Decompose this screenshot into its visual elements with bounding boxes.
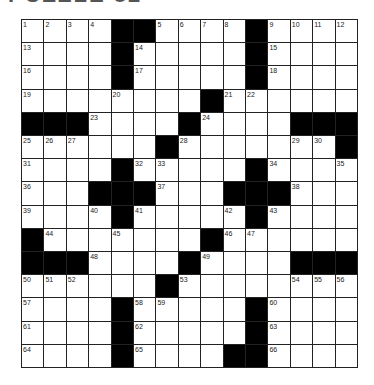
crossword-cell[interactable] [224, 322, 245, 344]
crossword-cell[interactable] [156, 229, 177, 251]
crossword-cell[interactable] [336, 66, 357, 88]
crossword-cell[interactable] [67, 229, 88, 251]
crossword-cell[interactable] [44, 206, 65, 228]
crossword-cell[interactable] [89, 66, 110, 88]
crossword-cell[interactable] [268, 229, 289, 251]
crossword-cell[interactable] [44, 90, 65, 112]
crossword-cell[interactable]: 27 [67, 136, 88, 158]
crossword-cell[interactable]: 1 [22, 20, 43, 42]
crossword-cell[interactable]: 53 [179, 275, 200, 297]
crossword-cell[interactable]: 47 [246, 229, 267, 251]
crossword-cell[interactable] [179, 229, 200, 251]
crossword-cell[interactable] [313, 298, 334, 320]
crossword-cell[interactable]: 59 [156, 298, 177, 320]
crossword-cell[interactable] [268, 136, 289, 158]
crossword-cell[interactable]: 33 [156, 159, 177, 181]
crossword-cell[interactable]: 65 [134, 345, 155, 367]
crossword-cell[interactable]: 40 [89, 206, 110, 228]
crossword-cell[interactable] [268, 252, 289, 274]
crossword-cell[interactable]: 64 [22, 345, 43, 367]
crossword-cell[interactable]: 32 [134, 159, 155, 181]
crossword-cell[interactable] [246, 136, 267, 158]
crossword-cell[interactable] [291, 66, 312, 88]
crossword-cell[interactable] [201, 66, 222, 88]
crossword-cell[interactable] [179, 159, 200, 181]
crossword-cell[interactable] [201, 298, 222, 320]
crossword-cell[interactable] [156, 345, 177, 367]
crossword-cell[interactable] [179, 322, 200, 344]
crossword-cell[interactable]: 63 [268, 322, 289, 344]
crossword-cell[interactable] [336, 322, 357, 344]
crossword-cell[interactable] [268, 90, 289, 112]
crossword-cell[interactable] [291, 345, 312, 367]
crossword-cell[interactable] [156, 252, 177, 274]
crossword-cell[interactable] [179, 206, 200, 228]
crossword-cell[interactable] [224, 43, 245, 65]
crossword-cell[interactable] [313, 43, 334, 65]
crossword-cell[interactable] [291, 206, 312, 228]
crossword-cell[interactable]: 12 [336, 20, 357, 42]
crossword-cell[interactable] [67, 43, 88, 65]
crossword-cell[interactable] [224, 113, 245, 135]
crossword-cell[interactable]: 7 [201, 20, 222, 42]
crossword-cell[interactable]: 37 [156, 182, 177, 204]
crossword-cell[interactable]: 60 [268, 298, 289, 320]
crossword-cell[interactable]: 2 [44, 20, 65, 42]
crossword-cell[interactable]: 8 [224, 20, 245, 42]
crossword-cell[interactable]: 16 [22, 66, 43, 88]
crossword-cell[interactable] [156, 322, 177, 344]
crossword-cell[interactable] [313, 345, 334, 367]
crossword-cell[interactable] [313, 66, 334, 88]
crossword-cell[interactable]: 66 [268, 345, 289, 367]
crossword-cell[interactable]: 31 [22, 159, 43, 181]
crossword-cell[interactable] [224, 298, 245, 320]
crossword-cell[interactable] [336, 229, 357, 251]
crossword-cell[interactable] [201, 275, 222, 297]
crossword-cell[interactable] [156, 113, 177, 135]
crossword-cell[interactable] [201, 43, 222, 65]
crossword-cell[interactable] [291, 298, 312, 320]
crossword-cell[interactable] [201, 322, 222, 344]
crossword-cell[interactable]: 38 [291, 182, 312, 204]
crossword-cell[interactable] [134, 136, 155, 158]
crossword-cell[interactable] [67, 345, 88, 367]
crossword-cell[interactable]: 34 [268, 159, 289, 181]
crossword-cell[interactable] [179, 182, 200, 204]
crossword-cell[interactable]: 21 [224, 90, 245, 112]
crossword-cell[interactable] [89, 298, 110, 320]
crossword-cell[interactable]: 25 [22, 136, 43, 158]
crossword-cell[interactable]: 54 [291, 275, 312, 297]
crossword-cell[interactable] [336, 345, 357, 367]
crossword-cell[interactable] [156, 206, 177, 228]
crossword-cell[interactable]: 41 [134, 206, 155, 228]
crossword-cell[interactable]: 4 [89, 20, 110, 42]
crossword-cell[interactable] [224, 252, 245, 274]
crossword-cell[interactable] [134, 90, 155, 112]
crossword-cell[interactable] [89, 90, 110, 112]
crossword-cell[interactable]: 49 [201, 252, 222, 274]
crossword-cell[interactable]: 48 [89, 252, 110, 274]
crossword-cell[interactable] [201, 159, 222, 181]
crossword-cell[interactable]: 30 [313, 136, 334, 158]
crossword-cell[interactable]: 29 [291, 136, 312, 158]
crossword-cell[interactable] [179, 345, 200, 367]
crossword-cell[interactable] [179, 43, 200, 65]
crossword-cell[interactable] [336, 43, 357, 65]
crossword-cell[interactable] [112, 252, 133, 274]
crossword-cell[interactable]: 24 [201, 113, 222, 135]
crossword-cell[interactable] [44, 43, 65, 65]
crossword-cell[interactable] [44, 66, 65, 88]
crossword-cell[interactable] [89, 322, 110, 344]
crossword-cell[interactable] [336, 298, 357, 320]
crossword-cell[interactable] [179, 90, 200, 112]
crossword-cell[interactable] [67, 322, 88, 344]
crossword-cell[interactable]: 52 [67, 275, 88, 297]
crossword-cell[interactable]: 28 [179, 136, 200, 158]
crossword-cell[interactable] [246, 252, 267, 274]
crossword-cell[interactable] [313, 159, 334, 181]
crossword-cell[interactable] [134, 229, 155, 251]
crossword-cell[interactable] [201, 136, 222, 158]
crossword-cell[interactable] [156, 90, 177, 112]
crossword-cell[interactable] [134, 275, 155, 297]
crossword-cell[interactable]: 57 [22, 298, 43, 320]
